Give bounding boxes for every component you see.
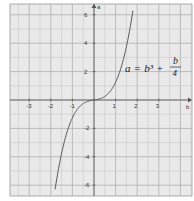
y-tick-label: -6 (84, 182, 90, 188)
equation-equals: = (134, 62, 140, 74)
x-tick-label: -2 (48, 103, 54, 109)
equation-fraction-numerator: b (173, 55, 178, 66)
equation-term1: b³ (144, 62, 154, 74)
y-tick-label: -2 (84, 125, 90, 131)
x-tick-label: -3 (26, 103, 32, 109)
svg-text:a = b³ +: a = b³ + (125, 62, 163, 74)
equation-lhs: a (125, 62, 131, 74)
y-tick-label: -4 (84, 154, 90, 160)
equation-plus: + (157, 62, 163, 74)
x-tick-label: -1 (69, 103, 75, 109)
function-plot: b a -3-2-1123642-2-4-6 a = b³ + b 4 (0, 0, 194, 201)
equation-fraction-denominator: 4 (173, 68, 178, 78)
